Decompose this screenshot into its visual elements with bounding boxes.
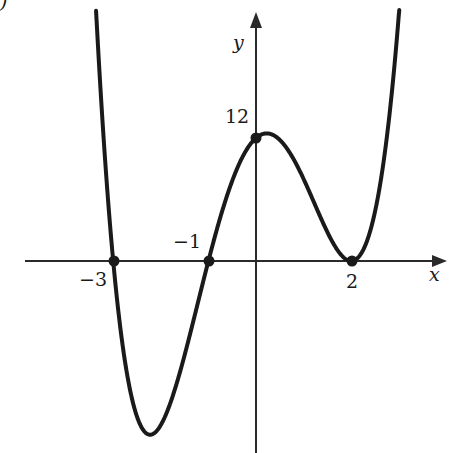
point-x-neg1	[204, 256, 215, 267]
y-axis-label: y	[232, 31, 244, 53]
tick-label-2: 2	[346, 270, 358, 292]
tick-label-neg3: −3	[79, 268, 107, 290]
point-y-12	[251, 133, 262, 144]
y-axis-arrow-icon	[250, 12, 262, 28]
function-graph: ) y x 12 −1 −3 2	[0, 0, 455, 453]
x-axis-label: x	[429, 263, 440, 285]
point-x-2	[347, 256, 358, 267]
tick-label-neg1: −1	[173, 230, 201, 252]
function-curve	[96, 10, 399, 435]
point-x-neg3	[109, 256, 120, 267]
figure-label-fragment: )	[0, 0, 7, 12]
tick-label-12: 12	[225, 105, 249, 127]
